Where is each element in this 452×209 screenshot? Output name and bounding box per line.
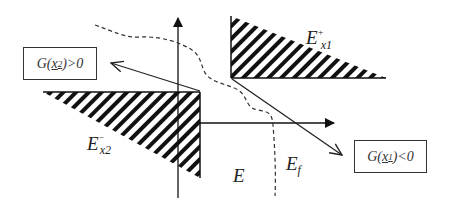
arrow-to-g-x1 xyxy=(232,79,342,155)
label-e-f: Ef xyxy=(285,153,303,177)
arrow-to-g-x2 xyxy=(111,63,200,91)
g-x2-prefix: G( xyxy=(37,56,52,72)
g-x1-negative-box: G(x1)<0 xyxy=(354,140,427,173)
g-x1-suffix: )<0 xyxy=(393,149,414,165)
label-e-x2-minus: E−x2 xyxy=(86,132,111,157)
g-x2-suffix: )>0 xyxy=(62,56,83,72)
g-x2-positive-box: G(x2)>0 xyxy=(23,47,97,80)
label-e: E xyxy=(232,165,245,186)
band-diagram: E+x1 E−x2 E Ef xyxy=(0,0,452,209)
valence-band-region xyxy=(43,92,200,178)
g-x1-prefix: G( xyxy=(367,149,382,165)
